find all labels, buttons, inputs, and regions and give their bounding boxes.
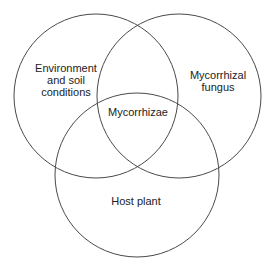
- environment-circle: [14, 14, 178, 178]
- fungus-label-line-2: fungus: [201, 81, 235, 93]
- fungus-circle: [97, 14, 261, 178]
- venn-diagram: Environment and soil conditions Mycorrhi…: [0, 0, 271, 270]
- environment-label-line-2: and soil: [47, 74, 85, 86]
- intersection-label: Mycorrhizae: [108, 106, 168, 118]
- fungus-label-line-1: Mycorrhizal: [190, 69, 246, 81]
- host-plant-label: Host plant: [111, 195, 161, 207]
- environment-label-line-3: conditions: [41, 86, 91, 98]
- environment-label-line-1: Environment: [35, 62, 97, 74]
- venn-svg: Environment and soil conditions Mycorrhi…: [0, 0, 271, 270]
